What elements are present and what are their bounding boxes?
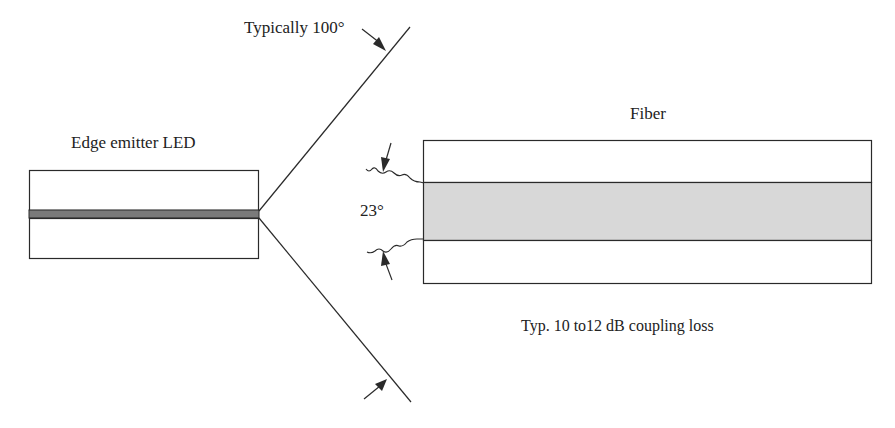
led-active-stripe — [29, 210, 259, 218]
fiber-label: Fiber — [630, 104, 666, 124]
emission-cone-upper-line — [259, 27, 410, 211]
coupling-loss-label: Typ. 10 to12 dB coupling loss — [521, 317, 714, 335]
acceptance-leader-upper — [366, 168, 424, 183]
led-bottom-layer — [30, 219, 259, 259]
diagram-canvas — [0, 0, 895, 428]
acceptance-leader-lower — [367, 239, 423, 253]
emission-cone-lower-line — [259, 218, 411, 402]
led-label: Edge emitter LED — [71, 133, 196, 153]
beam-angle-label: Typically 100° — [244, 18, 345, 38]
fiber-core — [424, 183, 872, 241]
acceptance-arrow-lower-icon — [381, 251, 392, 280]
fiber-cladding-top — [424, 141, 872, 183]
fiber-cladding-bottom — [424, 241, 872, 284]
acceptance-angle-label: 23° — [360, 201, 384, 221]
beam-angle-arrow-lower-icon — [364, 379, 387, 399]
beam-angle-arrow-upper-icon — [362, 29, 386, 51]
acceptance-arrow-upper-icon — [381, 143, 391, 172]
led-top-layer — [30, 171, 259, 211]
